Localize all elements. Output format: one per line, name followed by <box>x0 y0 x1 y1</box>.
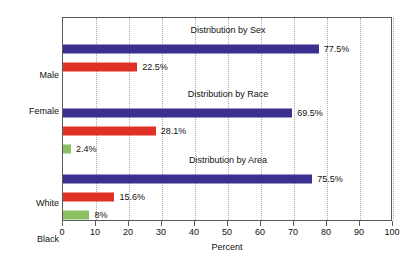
bar-value-label: 2.4% <box>76 145 97 154</box>
section-title: Distribution by Sex <box>190 26 265 35</box>
x-axis-tick <box>128 221 129 226</box>
bar[interactable]: 75.5%Cities <box>63 175 312 184</box>
bar-value-label: 8% <box>94 211 107 220</box>
plot-area: Distribution by Sex77.5%Male22.5%FemaleD… <box>62 17 392 221</box>
x-axis-tick-label: 70 <box>288 228 298 237</box>
x-axis-tick <box>260 221 261 226</box>
x-axis-tick-label: 30 <box>156 228 166 237</box>
x-axis-tick-label: 40 <box>189 228 199 237</box>
x-axis-tick-label: 90 <box>354 228 364 237</box>
bar-value-label: 15.6% <box>119 193 145 202</box>
category-label: Black <box>37 235 59 244</box>
x-axis-tick-label: 0 <box>59 228 64 237</box>
x-axis-tick <box>293 221 294 226</box>
x-axis-tick <box>392 221 393 226</box>
category-label: Male <box>39 71 59 80</box>
bar[interactable]: 8%Rural Areas <box>63 211 89 220</box>
bar[interactable]: 77.5%Male <box>63 45 319 54</box>
x-axis-tick-label: 80 <box>321 228 331 237</box>
section-title: Distribution by Area <box>189 156 267 165</box>
x-axis-tick <box>62 221 63 226</box>
x-axis-tick <box>194 221 195 226</box>
x-axis-tick-label: 10 <box>90 228 100 237</box>
x-axis-tick-label: 60 <box>255 228 265 237</box>
x-axis-tick <box>227 221 228 226</box>
category-label: White <box>36 199 59 208</box>
x-axis-title: Percent <box>211 243 242 252</box>
bar-value-label: 22.5% <box>142 63 168 72</box>
bar[interactable]: 15.6%Suburbs <box>63 193 114 202</box>
x-axis-tick <box>161 221 162 226</box>
bar-value-label: 28.1% <box>161 127 187 136</box>
x-axis-tick-label: 100 <box>384 228 399 237</box>
gridline <box>360 18 361 220</box>
bar-value-label: 77.5% <box>324 45 350 54</box>
x-axis-tick <box>359 221 360 226</box>
bar[interactable]: 69.5%White <box>63 109 292 118</box>
bar[interactable]: 2.4%Other <box>63 145 71 154</box>
bar[interactable]: 28.1%Black <box>63 127 156 136</box>
section-title: Distribution by Race <box>188 90 269 99</box>
x-axis-tick-label: 50 <box>222 228 232 237</box>
x-axis-tick <box>326 221 327 226</box>
gridline <box>393 18 394 220</box>
x-axis-tick-label: 20 <box>123 228 133 237</box>
x-axis-tick <box>95 221 96 226</box>
bar-value-label: 69.5% <box>297 109 323 118</box>
bar-chart: Distribution by Sex77.5%Male22.5%FemaleD… <box>0 0 412 262</box>
bar-value-label: 75.5% <box>317 175 343 184</box>
category-label: Female <box>29 107 59 116</box>
bar[interactable]: 22.5%Female <box>63 63 137 72</box>
